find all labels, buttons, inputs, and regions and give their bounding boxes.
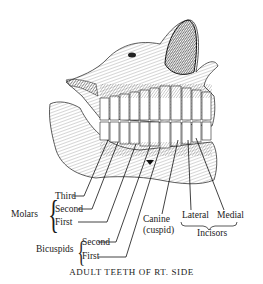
figure-caption: ADULT TEETH OF RT. SIDE bbox=[0, 267, 263, 277]
molar-first-label: First bbox=[55, 217, 72, 228]
bicuspid-first-label: First bbox=[82, 251, 99, 262]
canine-label: Canine bbox=[143, 214, 170, 225]
jaw-illustration bbox=[0, 0, 263, 284]
incisor-medial-label: Medial bbox=[217, 210, 244, 221]
nasal-cavity bbox=[165, 20, 196, 74]
incisor-lateral-label: Lateral bbox=[182, 210, 209, 221]
incisors-label: Incisors bbox=[197, 228, 227, 239]
foramen bbox=[128, 53, 136, 58]
molar-second-label: Second bbox=[55, 204, 83, 215]
bicuspid-second-label: Second bbox=[82, 237, 110, 248]
canine-sublabel: (cuspid) bbox=[143, 225, 174, 236]
molars-label: Molars bbox=[11, 209, 38, 220]
molar-third-label: Third bbox=[55, 191, 76, 202]
bicuspids-label: Bicuspids bbox=[36, 244, 73, 255]
